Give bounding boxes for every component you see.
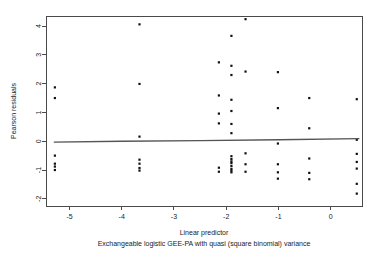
plot-background bbox=[0, 0, 380, 259]
data-point bbox=[230, 165, 232, 167]
data-point bbox=[218, 171, 220, 173]
data-point bbox=[218, 61, 220, 63]
data-point bbox=[277, 71, 279, 73]
data-point bbox=[138, 169, 140, 171]
data-point bbox=[54, 86, 56, 88]
data-point bbox=[244, 70, 246, 72]
data-point bbox=[138, 23, 140, 25]
data-point bbox=[308, 178, 310, 180]
data-point bbox=[277, 171, 279, 173]
y-tick-label: -1 bbox=[35, 167, 42, 173]
x-tick-label: -2 bbox=[223, 213, 229, 220]
data-point bbox=[230, 158, 232, 160]
data-point bbox=[218, 167, 220, 169]
y-tick-label: 1 bbox=[35, 110, 42, 114]
x-axis-sublabel: Exchangeable logistic GEE-PA with quasi … bbox=[98, 240, 311, 248]
data-point bbox=[277, 107, 279, 109]
data-point bbox=[54, 155, 56, 157]
data-point bbox=[230, 123, 232, 125]
data-point bbox=[308, 157, 310, 159]
data-point bbox=[138, 159, 140, 161]
data-point bbox=[356, 167, 358, 169]
chart-figure: -5-4-3-2-10 43210-1-2 Linear predictor E… bbox=[0, 0, 380, 259]
y-tick-label: 4 bbox=[35, 24, 42, 28]
x-tick-label: -3 bbox=[171, 213, 177, 220]
x-axis-label: Linear predictor bbox=[180, 229, 229, 237]
data-point bbox=[244, 152, 246, 154]
data-point bbox=[230, 65, 232, 67]
data-point bbox=[230, 35, 232, 37]
data-point bbox=[356, 161, 358, 163]
data-point bbox=[138, 167, 140, 169]
scatter-plot: -5-4-3-2-10 43210-1-2 Linear predictor E… bbox=[0, 0, 380, 259]
data-point bbox=[308, 127, 310, 129]
y-axis-label: Pearson residuals bbox=[10, 82, 17, 139]
data-point bbox=[230, 155, 232, 157]
data-point bbox=[356, 98, 358, 100]
x-tick-label: -4 bbox=[119, 213, 125, 220]
data-point bbox=[356, 153, 358, 155]
data-point bbox=[308, 172, 310, 174]
x-tick-label: 0 bbox=[329, 213, 333, 220]
data-point bbox=[244, 171, 246, 173]
data-point bbox=[218, 122, 220, 124]
y-tick-label: 2 bbox=[35, 82, 42, 86]
data-point bbox=[54, 169, 56, 171]
data-point bbox=[230, 110, 232, 112]
data-point bbox=[356, 193, 358, 195]
data-point bbox=[54, 165, 56, 167]
data-point bbox=[277, 142, 279, 144]
x-tick-label: -5 bbox=[66, 213, 72, 220]
data-point bbox=[277, 163, 279, 165]
data-point bbox=[308, 97, 310, 99]
data-point bbox=[230, 74, 232, 76]
y-tick-label: 0 bbox=[35, 139, 42, 143]
data-point bbox=[244, 163, 246, 165]
data-point bbox=[230, 132, 232, 134]
data-point bbox=[138, 136, 140, 138]
data-point bbox=[356, 183, 358, 185]
y-tick-label: -2 bbox=[35, 196, 42, 202]
data-point bbox=[138, 163, 140, 165]
data-point bbox=[138, 83, 140, 85]
data-point bbox=[277, 178, 279, 180]
y-tick-label: 3 bbox=[35, 53, 42, 57]
x-tick-label: -1 bbox=[275, 213, 281, 220]
data-point bbox=[244, 18, 246, 20]
data-point bbox=[218, 112, 220, 114]
data-point bbox=[218, 94, 220, 96]
data-point bbox=[54, 97, 56, 99]
data-point bbox=[54, 163, 56, 165]
data-point bbox=[230, 99, 232, 101]
data-point bbox=[230, 171, 232, 173]
data-point bbox=[230, 162, 232, 164]
